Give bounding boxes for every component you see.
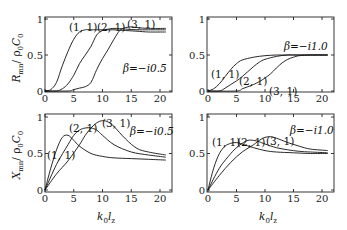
- y-tick-label: 1: [199, 14, 205, 25]
- x-tick-label: 5: [71, 193, 77, 204]
- x-tick-label: 20: [154, 93, 167, 104]
- top-right-beta-annotation: β=−i1.0: [283, 40, 328, 52]
- y-tick-label: 0.5: [27, 50, 43, 61]
- y-tick-label: 1: [37, 14, 43, 25]
- y-tick-label: 0: [199, 86, 205, 97]
- bottom-left-xlabel: k0lz: [97, 210, 115, 225]
- y-tick-label: 0: [37, 86, 43, 97]
- y-tick-label: 0.5: [189, 50, 205, 61]
- br-mode-2-1-label: (2, 1): [237, 136, 265, 148]
- x-tick-label: 20: [316, 193, 329, 204]
- x-tick-label: 5: [233, 193, 239, 204]
- top-ylabel: Rmn/ ρ0C0: [10, 33, 25, 83]
- x-tick-label: 20: [316, 93, 329, 104]
- bl-mode-3-1-label: (3, 1): [102, 117, 130, 129]
- bottom-ylabel: Xmn/ ρ0C0: [10, 131, 25, 181]
- y-tick-label: 0.5: [27, 148, 43, 159]
- x-tick-label: 0: [205, 193, 211, 204]
- x-tick-label: 10: [96, 193, 109, 204]
- y-tick-label: 1: [199, 112, 205, 123]
- tr-mode-1-1-label: (1, 1): [211, 68, 239, 80]
- x-tick-label: 15: [287, 193, 300, 204]
- x-tick-label: 5: [71, 93, 77, 104]
- axes-frame: [207, 17, 334, 92]
- br-mode-3-1-label: (3, 1): [266, 135, 294, 147]
- curve-mode-1-1: [208, 143, 328, 190]
- bottom-right-xlabel: k0lz: [259, 210, 277, 225]
- tl-mode-2-1-label: (2, 1): [97, 21, 125, 33]
- curve-mode-2-1: [45, 28, 166, 91]
- x-tick-label: 10: [96, 93, 109, 104]
- tl-mode-3-1-label: (3, 1): [127, 18, 155, 30]
- y-tick-label: 0: [199, 185, 205, 196]
- bottom-right-beta-annotation: β=−i1.0: [289, 124, 334, 136]
- tr-mode-2-1-label: (2, 1): [239, 75, 267, 87]
- tr-mode-3-1-label: (3, 1): [269, 85, 297, 97]
- curve-mode-1-1: [45, 30, 166, 91]
- y-tick-label: 0.5: [189, 148, 205, 159]
- x-tick-label: 15: [125, 93, 138, 104]
- x-tick-label: 0: [205, 93, 211, 104]
- x-tick-label: 15: [125, 193, 138, 204]
- y-tick-label: 1: [37, 112, 43, 123]
- y-tick-label: 0: [37, 185, 43, 196]
- bl-mode-2-1-label: (2, 1): [69, 122, 97, 134]
- br-mode-1-1-label: (1, 1): [212, 136, 240, 148]
- x-tick-label: 20: [154, 193, 167, 204]
- tl-mode-1-1-label: (1, 1): [69, 21, 97, 33]
- top-right-panel: 0510152000.51: [189, 14, 334, 105]
- x-tick-label: 5: [233, 93, 239, 104]
- bl-mode-1-1-label: (1, 1): [47, 149, 75, 161]
- figure: 0510152000.510510152000.510510152000.510…: [0, 0, 347, 230]
- curve-mode-3-1: [45, 27, 166, 91]
- x-tick-label: 10: [259, 193, 272, 204]
- top-left-beta-annotation: β=−i0.5: [122, 62, 167, 74]
- curve-mode-1-1: [45, 135, 166, 190]
- bottom-left-beta-annotation: β=−i0.5: [129, 125, 174, 137]
